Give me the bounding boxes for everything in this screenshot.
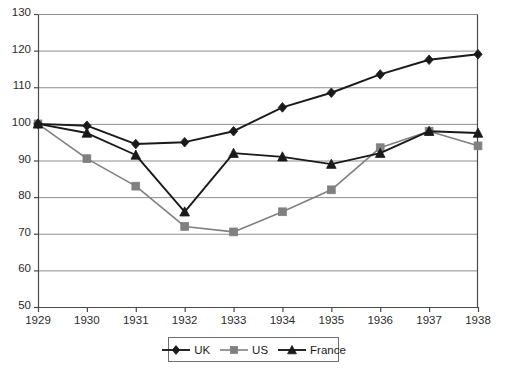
y-tick-label: 90	[0, 153, 31, 165]
y-tick-label: 120	[0, 43, 31, 55]
chart-legend: UKUSFrance	[168, 337, 339, 362]
data-point-marker-diamond	[376, 70, 384, 80]
legend-item-us[interactable]: US	[219, 343, 268, 357]
data-point-marker-square	[132, 182, 140, 190]
data-point-marker-diamond	[83, 121, 91, 131]
y-tick-label: 130	[0, 6, 31, 18]
x-tick-label: 1938	[454, 314, 502, 326]
legend-label: UK	[194, 344, 210, 356]
data-point-marker-square	[327, 186, 335, 194]
legend-item-uk[interactable]: UK	[161, 343, 210, 357]
x-tick-label: 1933	[210, 314, 258, 326]
axis-ticks	[34, 15, 479, 313]
x-tick-label: 1932	[161, 314, 209, 326]
data-point-marker-diamond	[132, 139, 140, 149]
data-point-marker-diamond	[180, 137, 188, 147]
data-point-marker-square	[83, 155, 91, 163]
y-tick-label: 110	[0, 79, 31, 91]
gridlines	[38, 15, 478, 308]
data-point-marker-square	[474, 142, 482, 150]
line-chart: 1301201101009080706050 19291930193119321…	[0, 0, 506, 375]
x-tick-label: 1930	[63, 314, 111, 326]
legend-item-france[interactable]: France	[277, 343, 346, 357]
data-point-marker-triangle	[131, 150, 141, 159]
x-tick-label: 1934	[258, 314, 306, 326]
series-france	[33, 119, 483, 216]
x-tick-label: 1936	[356, 314, 404, 326]
x-tick-label: 1937	[405, 314, 453, 326]
x-tick-label: 1935	[307, 314, 355, 326]
x-tick-label: 1929	[14, 314, 62, 326]
legend-marker-square-icon	[219, 343, 249, 357]
data-point-marker-diamond	[425, 55, 433, 65]
legend-marker-triangle-icon	[277, 343, 307, 357]
legend-label: US	[252, 344, 268, 356]
data-point-marker-square	[279, 208, 287, 216]
data-point-marker-diamond	[278, 103, 286, 113]
data-point-marker-square	[230, 228, 238, 236]
data-point-marker-diamond	[172, 345, 180, 354]
y-tick-label: 50	[0, 299, 31, 311]
y-tick-label: 70	[0, 226, 31, 238]
data-point-marker-square	[181, 223, 189, 231]
data-point-marker-square	[231, 346, 238, 353]
data-series-layer	[33, 49, 483, 235]
x-tick-label: 1931	[112, 314, 160, 326]
data-point-marker-diamond	[327, 88, 335, 98]
y-tick-label: 100	[0, 116, 31, 128]
series-line	[38, 54, 478, 144]
y-tick-label: 60	[0, 262, 31, 274]
legend-label: France	[310, 344, 346, 356]
data-point-marker-diamond	[229, 126, 237, 136]
y-tick-label: 80	[0, 189, 31, 201]
legend-marker-diamond-icon	[161, 343, 191, 357]
series-uk	[34, 49, 482, 148]
